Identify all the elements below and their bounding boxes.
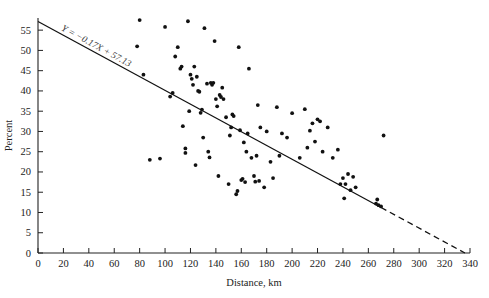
data-point	[189, 73, 193, 77]
data-point	[176, 45, 180, 49]
data-point	[222, 97, 226, 101]
data-point	[265, 130, 269, 134]
data-point	[237, 45, 241, 49]
data-point	[379, 205, 383, 209]
x-tick-label: 280	[386, 258, 402, 269]
data-point	[187, 109, 191, 113]
data-point	[186, 19, 190, 23]
data-point	[257, 179, 261, 183]
data-point	[354, 185, 358, 189]
data-point	[241, 177, 245, 181]
data-point	[321, 150, 325, 154]
data-point	[180, 65, 184, 69]
data-point	[168, 95, 172, 99]
regression-line-solid	[38, 22, 381, 208]
data-point	[203, 26, 207, 30]
data-point	[191, 83, 195, 87]
data-point	[232, 114, 236, 118]
x-tick-label: 60	[109, 258, 120, 269]
data-point	[303, 107, 307, 111]
data-point	[305, 146, 309, 150]
data-point	[269, 160, 273, 164]
x-tick-label: 100	[157, 258, 173, 269]
regression-line-dashed	[381, 207, 465, 252]
data-point	[183, 147, 187, 151]
data-point	[234, 192, 238, 196]
x-tick-label: 40	[84, 258, 95, 269]
x-tick-label: 20	[58, 258, 69, 269]
data-point	[278, 154, 282, 158]
data-point	[199, 111, 203, 115]
y-tick-label: 30	[21, 126, 32, 137]
x-tick-label: 240	[335, 258, 351, 269]
data-point	[242, 140, 246, 144]
data-point	[224, 115, 228, 119]
data-point	[244, 150, 248, 154]
data-point	[229, 126, 233, 130]
y-tick-label: 45	[21, 65, 32, 76]
data-point	[220, 86, 224, 90]
data-point	[228, 134, 232, 138]
y-tick-label: 5	[26, 227, 31, 238]
data-point	[255, 154, 259, 158]
data-point	[351, 175, 355, 179]
data-point	[163, 25, 167, 29]
x-tick-label: 300	[411, 258, 427, 269]
x-tick-label: 80	[134, 258, 145, 269]
data-point	[195, 75, 199, 79]
data-point	[205, 82, 209, 86]
data-point	[227, 182, 231, 186]
data-point	[280, 132, 284, 136]
data-point	[158, 157, 162, 161]
y-tick-label: 25	[21, 146, 32, 157]
data-point	[253, 180, 257, 184]
data-point	[215, 104, 219, 108]
data-point	[290, 111, 294, 115]
data-point	[246, 132, 250, 136]
data-point	[318, 119, 322, 123]
data-point	[341, 176, 345, 180]
data-point	[236, 189, 240, 193]
chart-canvas: 0204060801001201401601802002202402602803…	[0, 0, 489, 298]
data-point	[213, 39, 217, 43]
y-tick-label: 35	[21, 106, 32, 117]
data-point	[298, 156, 302, 160]
data-point	[200, 108, 204, 112]
data-point	[313, 140, 317, 144]
data-point	[344, 182, 348, 186]
data-point	[206, 150, 210, 154]
x-tick-label: 120	[183, 258, 199, 269]
data-point	[271, 176, 275, 180]
x-tick-label: 220	[310, 258, 326, 269]
data-point	[346, 172, 350, 176]
data-point	[250, 156, 254, 160]
data-points-group	[135, 18, 385, 208]
data-point	[285, 136, 289, 140]
regression-line-group	[38, 22, 465, 253]
data-point	[181, 124, 185, 128]
y-axis-title: Percent	[3, 120, 14, 152]
data-point	[375, 198, 379, 202]
x-tick-label: 200	[284, 258, 300, 269]
data-point	[252, 174, 256, 178]
x-tick-label: 160	[233, 258, 249, 269]
data-point	[238, 128, 242, 132]
data-point	[339, 182, 343, 186]
data-point	[135, 44, 139, 48]
data-point	[247, 67, 251, 71]
data-point	[349, 188, 353, 192]
data-point	[148, 158, 152, 162]
data-point	[382, 134, 386, 138]
x-tick-label: 320	[437, 258, 453, 269]
data-point	[201, 136, 205, 140]
data-point	[190, 77, 194, 81]
data-point	[243, 180, 247, 184]
y-tick-label: 40	[21, 85, 32, 96]
data-point	[208, 155, 212, 159]
data-point	[331, 156, 335, 160]
data-point	[326, 126, 330, 130]
scatter-chart: 0204060801001201401601802002202402602803…	[0, 0, 489, 298]
x-tick-label: 260	[360, 258, 376, 269]
data-point	[342, 196, 346, 200]
data-point	[192, 65, 196, 69]
